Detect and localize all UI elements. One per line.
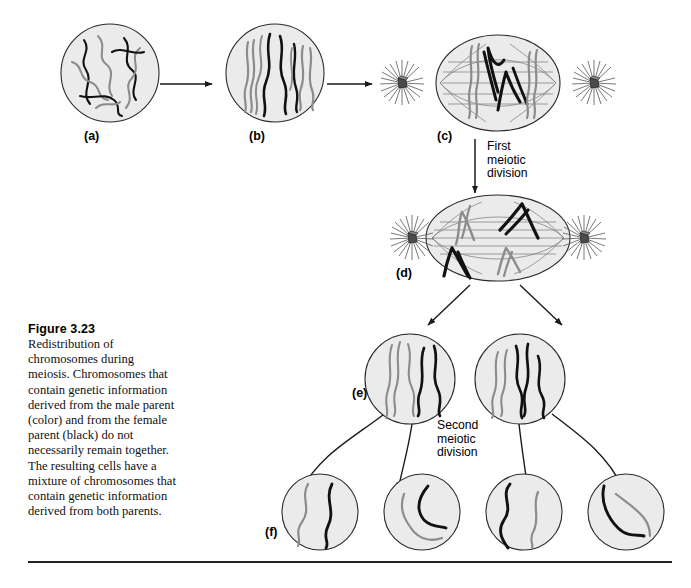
cell-a <box>61 24 159 122</box>
second-division-line-2: meiotic <box>437 433 478 447</box>
arrow-d-to-e-right <box>520 285 562 325</box>
cell-e-right <box>475 334 565 424</box>
arrow-d-to-e-left <box>428 285 470 325</box>
first-division-line-1: First <box>487 140 528 154</box>
figure-number: Figure 3.23 <box>28 322 178 336</box>
stage-label-e: (e) <box>352 386 367 400</box>
figure-caption: Figure 3.23 Redistribution of chromosome… <box>28 322 178 519</box>
cell-f-1 <box>282 474 358 550</box>
cell-c <box>380 35 616 131</box>
cell-e-left <box>365 334 455 424</box>
first-division-line-2: meiotic <box>487 154 528 168</box>
stage-label-b: (b) <box>249 129 265 143</box>
cell-f-4 <box>588 474 664 550</box>
first-division-line-3: division <box>487 167 528 181</box>
first-meiotic-division-label: First meiotic division <box>487 140 528 181</box>
stage-label-d: (d) <box>396 266 412 280</box>
second-division-line-3: division <box>437 446 478 460</box>
centrosome-left-c <box>380 60 424 105</box>
second-meiotic-division-label: Second meiotic division <box>437 419 478 460</box>
cell-f-3 <box>486 474 562 550</box>
cell-f-2 <box>384 474 460 550</box>
cell-d <box>390 195 606 281</box>
second-division-line-1: Second <box>437 419 478 433</box>
stage-label-c: (c) <box>437 129 452 143</box>
stage-label-a: (a) <box>84 129 99 143</box>
footer-rule <box>28 561 672 563</box>
centrosome-right-c <box>572 60 616 105</box>
stage-label-f: (f) <box>265 525 278 539</box>
cell-b <box>226 24 324 122</box>
figure-caption-text: Redistribution of chromosomes during mei… <box>28 337 178 519</box>
